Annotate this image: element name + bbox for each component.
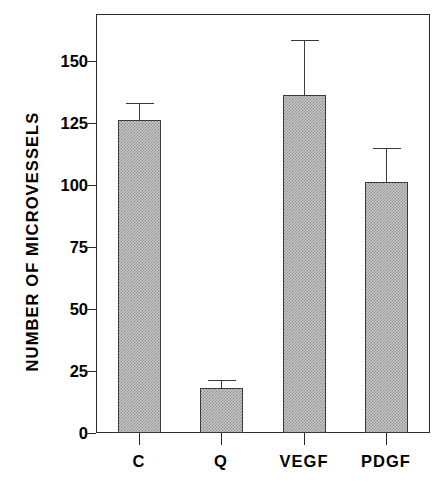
x-tick-mark-PDGF [386, 433, 387, 445]
x-tick-label-C: C [99, 452, 179, 471]
bar-PDGF [365, 182, 408, 433]
error-bar-stem-VEGF [304, 40, 305, 96]
x-tick-mark-C [139, 433, 140, 445]
error-bar-cap-C [126, 103, 154, 104]
y-tick-mark-25 [85, 371, 96, 372]
y-tick-mark-150 [85, 61, 96, 62]
error-bar-stem-Q [221, 380, 222, 389]
y-tick-mark-100 [85, 185, 96, 186]
x-tick-mark-VEGF [304, 433, 305, 445]
y-tick-mark-50 [85, 309, 96, 310]
x-tick-label-Q: Q [181, 452, 261, 471]
y-tick-mark-0 [85, 433, 96, 434]
error-bar-stem-PDGF [386, 148, 387, 183]
y-tick-label-150: 150 [60, 52, 88, 71]
x-tick-label-PDGF: PDGF [346, 452, 426, 471]
error-bar-cap-Q [208, 380, 236, 381]
y-tick-mark-125 [85, 123, 96, 124]
error-bar-stem-C [139, 103, 140, 121]
error-bar-cap-VEGF [291, 40, 319, 41]
y-tick-label-100: 100 [60, 176, 88, 195]
chart-figure: NUMBER OF MICROVESSELS 0 25 50 75 100 12… [0, 0, 443, 490]
bar-VEGF [283, 95, 326, 433]
error-bar-cap-PDGF [373, 148, 401, 149]
bar-Q [200, 388, 243, 433]
bar-C [118, 120, 161, 433]
y-axis-title: NUMBER OF MICROVESSELS [23, 92, 42, 392]
x-tick-mark-Q [221, 433, 222, 445]
y-tick-label-125: 125 [60, 114, 88, 133]
y-tick-mark-75 [85, 247, 96, 248]
x-tick-label-VEGF: VEGF [264, 452, 344, 471]
